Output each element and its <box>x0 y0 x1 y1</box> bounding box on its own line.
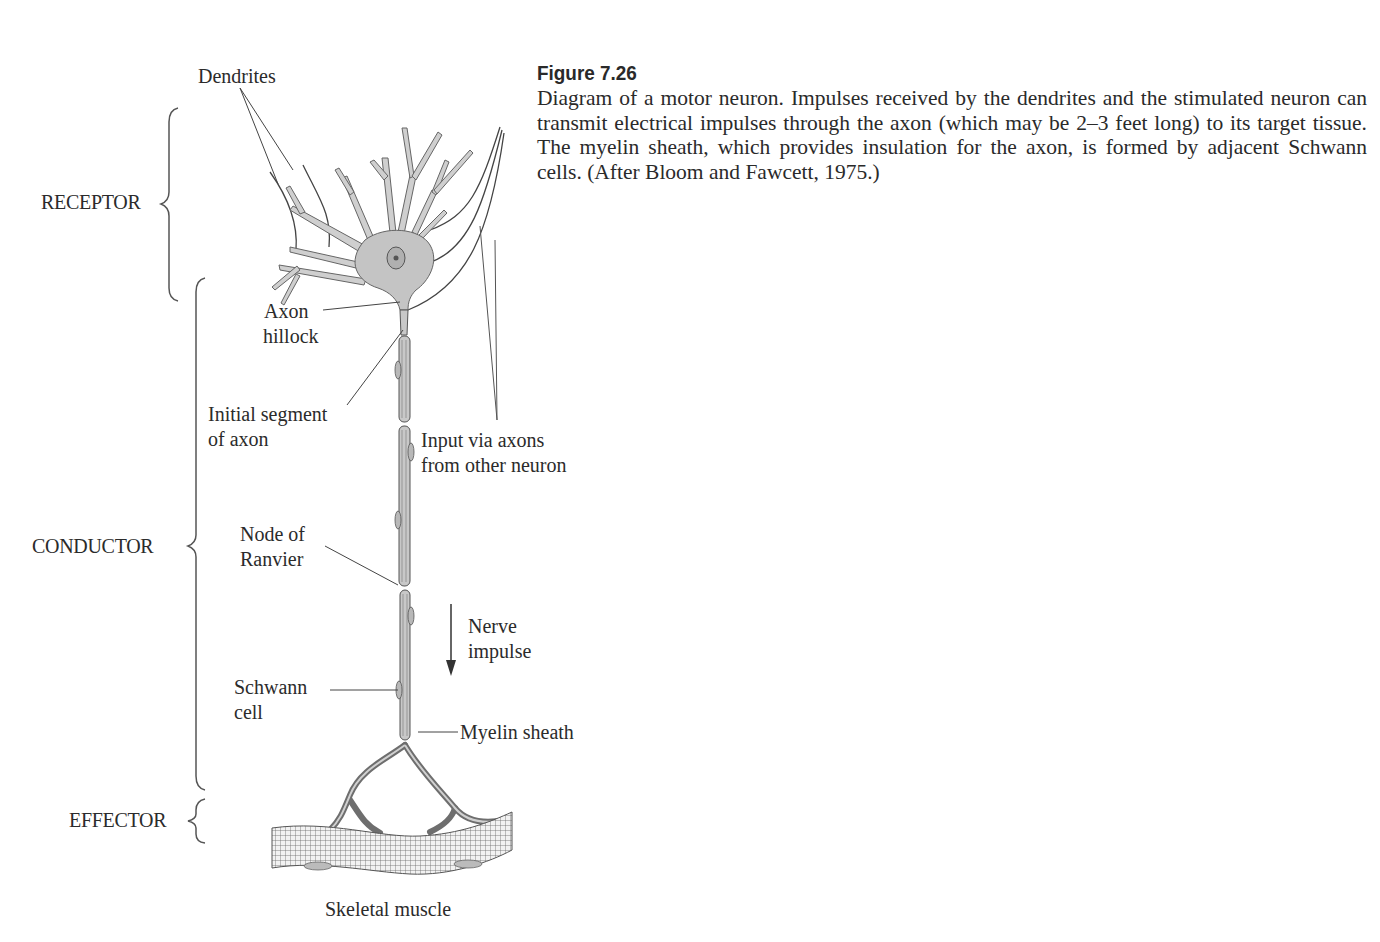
label-initial-segment-line2: of axon <box>208 427 269 452</box>
label-input-axons-line2: from other neuron <box>421 453 567 478</box>
label-nerve-impulse-line1: Nerve <box>468 614 517 639</box>
section-label-effector: EFFECTOR <box>69 808 166 832</box>
label-myelin-sheath: Myelin sheath <box>460 720 574 745</box>
label-input-axons-line1: Input via axons <box>421 428 544 453</box>
label-node-of-ranvier-line2: Ranvier <box>240 547 303 572</box>
label-skeletal-muscle: Skeletal muscle <box>325 897 451 922</box>
section-label-receptor: RECEPTOR <box>41 190 140 214</box>
receptor-bracket <box>161 108 178 301</box>
figure-title: Figure 7.26 <box>537 60 1284 86</box>
pointer-lines <box>323 302 458 732</box>
figure-caption-body: Diagram of a motor neuron. Impulses rece… <box>537 86 1367 184</box>
input-pointer-lines <box>480 226 497 420</box>
label-nerve-impulse-line2: impulse <box>468 639 531 664</box>
effector-bracket <box>188 799 205 843</box>
label-initial-segment-line1: Initial segment <box>208 402 327 427</box>
label-dendrites: Dendrites <box>198 64 276 89</box>
nerve-impulse-arrow-icon <box>446 604 456 676</box>
label-axon-hillock-line1: Axon <box>264 299 308 324</box>
label-node-of-ranvier-line1: Node of <box>240 522 305 547</box>
terminal-branches <box>330 745 505 833</box>
label-schwann-cell-line1: Schwann <box>234 675 307 700</box>
label-schwann-cell-line2: cell <box>234 700 263 725</box>
figure-caption: Figure 7.26 Diagram of a motor neuron. I… <box>537 60 1367 184</box>
label-axon-hillock-line2: hillock <box>263 324 319 349</box>
section-label-conductor: CONDUCTOR <box>32 534 153 558</box>
cell-body <box>355 230 434 310</box>
conductor-bracket <box>188 278 205 790</box>
dendrite-pointer-lines <box>240 88 293 184</box>
